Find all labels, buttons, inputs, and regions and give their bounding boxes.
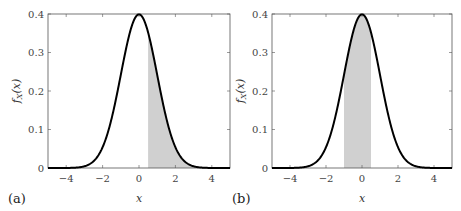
y-tick-label: 0.1 [28,124,44,135]
y-tick-label: 0.3 [28,47,44,58]
shaded-area [148,32,230,168]
chart-panel-a: −4−202400.10.20.30.4xfX(x)(a) [8,9,230,207]
panel-label: (a) [8,191,26,206]
x-tick-label: −4 [283,173,298,184]
pdf-curve [48,14,230,168]
y-tick-label: 0.3 [252,47,268,58]
y-tick-label: 0.2 [252,86,268,97]
shaded-area [344,14,371,168]
axes-frame [48,14,230,168]
panel-label: (b) [232,191,250,206]
y-tick-label: 0.1 [252,124,268,135]
figure: −4−202400.10.20.30.4xfX(x)(a)−4−202400.1… [0,0,461,211]
x-axis-label: x [136,192,143,205]
y-axis-label: fX(x) [234,79,248,105]
y-tick-label: 0 [262,163,268,174]
x-tick-label: −2 [95,173,110,184]
x-tick-label: 0 [359,173,365,184]
chart-panel-b: −4−202400.10.20.30.4xfX(x)(b) [232,9,452,207]
y-tick-label: 0 [38,163,44,174]
x-tick-label: 0 [136,173,142,184]
x-tick-label: −4 [59,173,74,184]
y-tick-label: 0.4 [252,9,268,20]
x-tick-label: 4 [209,173,215,184]
x-tick-label: 2 [395,173,401,184]
x-tick-label: −2 [319,173,334,184]
x-axis-label: x [359,192,366,205]
y-axis-label: fX(x) [10,79,24,105]
x-tick-label: 4 [431,173,437,184]
x-tick-label: 2 [172,173,178,184]
y-tick-label: 0.2 [28,86,44,97]
y-tick-label: 0.4 [28,9,44,20]
